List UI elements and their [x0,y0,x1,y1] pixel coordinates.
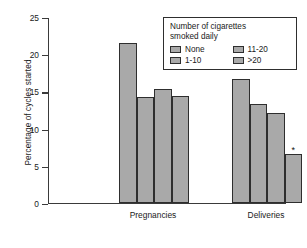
legend-item: None [170,45,229,54]
significance-marker: * [291,146,295,155]
legend-item-label: >20 [248,56,262,65]
y-axis-tick [42,204,48,205]
x-axis-group-label: Deliveries [248,210,285,220]
y-axis-tick-label: 20 [30,50,39,60]
legend: Number of cigarettes smoked daily None11… [163,17,297,70]
legend-title: Number of cigarettes smoked daily [170,22,291,42]
bar [137,97,155,203]
y-axis-tick [42,130,48,131]
legend-title-line-1: Number of cigarettes [170,22,291,32]
x-axis-line [48,203,286,204]
legend-swatch-icon [233,57,244,64]
y-axis-tick [42,92,48,93]
legend-swatch-icon [233,46,244,53]
bar [232,79,250,203]
legend-item-label: None [185,45,205,54]
legend-swatch-icon [170,57,181,64]
y-axis-tick [42,18,48,19]
legend-title-line-2: smoked daily [170,32,291,42]
bar [267,113,285,202]
bar [154,89,172,203]
y-axis-tick-label: 0 [34,199,39,209]
legend-item-label: 11-20 [248,45,268,54]
legend-item: >20 [233,56,292,65]
legend-item-label: 1-10 [185,56,201,65]
bar [172,96,190,202]
y-axis-tick-label: 10 [30,125,39,135]
y-axis-tick [42,167,48,168]
bar [119,43,137,202]
y-axis-tick-label: 25 [30,13,39,23]
figure-bar-chart: Percentage of cycles started 0510152025 … [0,0,307,248]
bar: * [285,154,303,203]
legend-items: None11-201-10>20 [170,45,291,65]
x-axis-group-label: Pregnancies [130,210,177,220]
legend-item: 1-10 [170,56,229,65]
bar [250,104,268,202]
legend-item: 11-20 [233,45,292,54]
y-axis-tick-label: 5 [34,162,39,172]
legend-swatch-icon [170,46,181,53]
y-axis-tick [42,55,48,56]
y-axis-tick-label: 15 [30,87,39,97]
